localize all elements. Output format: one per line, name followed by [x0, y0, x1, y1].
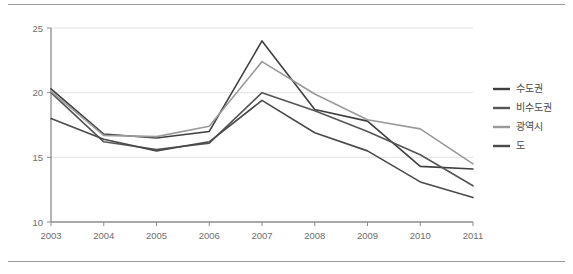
- legend-label-비수도권: 비수도권: [516, 102, 552, 113]
- legend-label-도: 도: [516, 140, 525, 151]
- y-tick-label-20: 20: [32, 87, 43, 98]
- x-tick-label-2005: 2005: [146, 230, 167, 241]
- x-tick-label-2011: 2011: [463, 230, 483, 241]
- x-axis-tick-labels: 200320042005200620072008200920102011: [40, 230, 483, 241]
- line-chart-plot: 10152025 2003200420052006200720082009201…: [0, 0, 573, 274]
- y-axis-tick-labels: 10152025: [32, 23, 43, 228]
- legend-label-광역시: 광역시: [516, 121, 543, 132]
- y-tick-label-15: 15: [32, 152, 43, 163]
- series-line-광역시: [51, 62, 473, 164]
- x-tick-label-2008: 2008: [304, 230, 325, 241]
- x-tick-label-2003: 2003: [40, 230, 61, 241]
- series-line-도: [51, 100, 473, 197]
- data-series-group: [51, 41, 473, 198]
- x-tick-label-2009: 2009: [357, 230, 378, 241]
- chart-svg: 10152025 2003200420052006200720082009201…: [0, 0, 573, 274]
- x-tick-label-2010: 2010: [410, 230, 431, 241]
- y-tick-label-25: 25: [32, 23, 43, 34]
- chart-legend: 수도권비수도권광역시도: [493, 83, 552, 151]
- x-tick-label-2007: 2007: [251, 230, 272, 241]
- y-tick-label-10: 10: [32, 217, 43, 228]
- legend-label-수도권: 수도권: [516, 83, 543, 94]
- x-tick-label-2006: 2006: [199, 230, 220, 241]
- series-line-비수도권: [51, 93, 473, 186]
- chart-figure: 10152025 2003200420052006200720082009201…: [0, 0, 573, 274]
- x-tick-label-2004: 2004: [93, 230, 114, 241]
